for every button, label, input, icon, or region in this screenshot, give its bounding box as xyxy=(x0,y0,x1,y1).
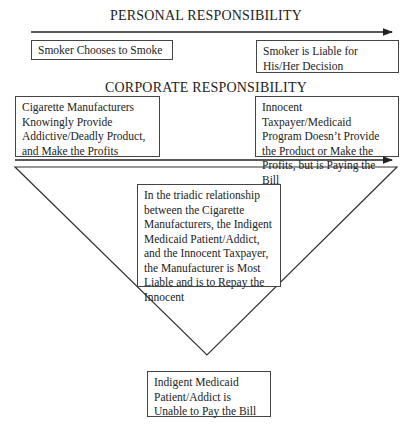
smoker-liable-box: Smoker is Liable for His/Her Decision xyxy=(256,40,399,73)
taxpayer-box: Innocent Taxpayer/Medicaid Program Doesn… xyxy=(255,96,399,157)
smoker-chooses-box: Smoker Chooses to Smoke xyxy=(31,40,173,60)
triadic-relationship-box: In the triadic relationship between the … xyxy=(137,184,281,287)
manufacturers-box: Cigarette Manufacturers Knowingly Provid… xyxy=(15,96,160,157)
indigent-patient-box: Indigent Medicaid Patient/Addict is Unab… xyxy=(147,371,271,417)
personal-responsibility-heading: PERSONAL RESPONSIBILITY xyxy=(0,8,412,24)
corporate-responsibility-heading: CORPORATE RESPONSIBILITY xyxy=(0,80,412,96)
